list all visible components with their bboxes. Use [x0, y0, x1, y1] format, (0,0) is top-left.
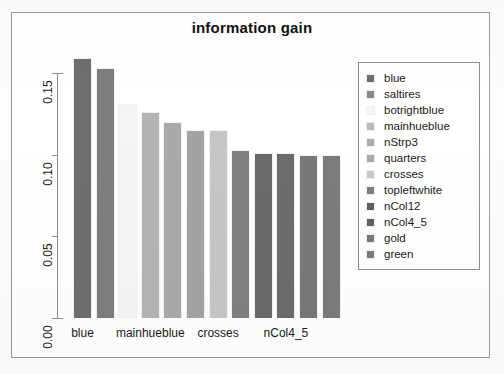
- legend-swatch-icon: [366, 138, 375, 147]
- legend-item: nCol4_5: [366, 214, 473, 230]
- legend-swatch-icon: [366, 154, 375, 163]
- legend-swatch-icon: [366, 74, 375, 83]
- bar: [163, 122, 182, 318]
- legend-item: botrightblue: [366, 102, 473, 118]
- legend-swatch-icon: [366, 106, 375, 115]
- legend-item: crosses: [366, 166, 473, 182]
- y-axis-tick-label: 0.00: [41, 317, 55, 357]
- legend-item-label: nCol4_5: [384, 217, 427, 228]
- legend-item-label: topleftwhite: [384, 185, 442, 196]
- y-axis-cap-top: [57, 73, 63, 74]
- legend-item: nCol12: [366, 198, 473, 214]
- legend-item-label: nCol12: [384, 201, 420, 212]
- y-axis-cap-bottom: [57, 318, 63, 319]
- y-axis-tick-label: 0.05: [41, 235, 55, 275]
- bar: [96, 68, 115, 318]
- bar: [186, 130, 205, 318]
- legend-swatch-icon: [366, 218, 375, 227]
- legend-swatch-icon: [366, 186, 375, 195]
- legend-item-label: gold: [384, 233, 406, 244]
- x-axis-tick-label: mainhueblue: [116, 326, 185, 340]
- legend-swatch-icon: [366, 250, 375, 259]
- bar: [276, 153, 295, 318]
- bar: [254, 153, 273, 318]
- legend-item: nStrp3: [366, 134, 473, 150]
- legend-swatch-icon: [366, 170, 375, 179]
- bar: [322, 155, 341, 318]
- legend-item: saltires: [366, 86, 473, 102]
- legend-swatch-icon: [366, 234, 375, 243]
- figure-canvas: information gain 0.000.050.100.15 bluema…: [0, 0, 504, 374]
- legend-item: blue: [366, 70, 473, 86]
- x-axis-tick-label: nCol4_5: [264, 326, 309, 340]
- bar: [231, 150, 250, 318]
- legend-item-label: green: [384, 249, 413, 260]
- legend-swatch-icon: [366, 90, 375, 99]
- x-axis-tick-label: crosses: [197, 326, 238, 340]
- legend-item-label: quarters: [384, 153, 426, 164]
- bar: [209, 130, 228, 318]
- bar: [73, 58, 92, 318]
- y-axis-tick-label: 0.15: [41, 72, 55, 112]
- y-axis-line: [57, 73, 58, 319]
- legend-item-label: mainhueblue: [384, 121, 450, 132]
- legend-item-label: saltires: [384, 89, 420, 100]
- legend-item-label: blue: [384, 73, 406, 84]
- legend-item-label: crosses: [384, 169, 424, 180]
- legend-item-label: botrightblue: [384, 105, 444, 116]
- legend-item: green: [366, 246, 473, 262]
- legend-item: topleftwhite: [366, 182, 473, 198]
- bar: [299, 155, 318, 318]
- bar: [141, 112, 160, 318]
- bar: [118, 104, 137, 318]
- legend: bluesaltiresbotrightbluemainhuebluenStrp…: [358, 62, 480, 270]
- legend-item: quarters: [366, 150, 473, 166]
- legend-item: gold: [366, 230, 473, 246]
- y-axis-tick-label: 0.10: [41, 154, 55, 194]
- legend-swatch-icon: [366, 122, 375, 131]
- legend-item: mainhueblue: [366, 118, 473, 134]
- x-axis-tick-label: blue: [71, 326, 94, 340]
- legend-swatch-icon: [366, 202, 375, 211]
- legend-item-label: nStrp3: [384, 137, 418, 148]
